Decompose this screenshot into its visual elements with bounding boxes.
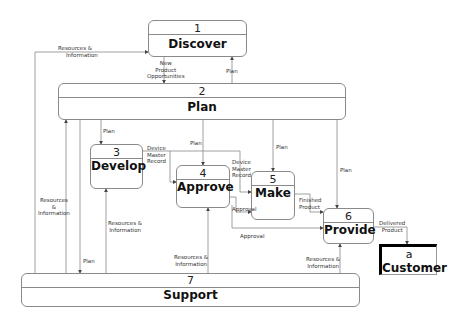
external-entity-customer: a Customer [379, 244, 437, 275]
process-discover: 1 Discover [148, 20, 247, 57]
flow-label-plan-make: Plan [276, 144, 288, 151]
flow-label-approval-make: Approval [232, 206, 256, 213]
process-number: 7 [22, 274, 359, 287]
process-develop: 3 Develop [90, 144, 143, 189]
flow-label-plan-provide: Plan [340, 167, 352, 174]
flow-label-dmr-develop: DeviceMasterRecord [147, 145, 166, 165]
process-plan: 2 Plan [58, 83, 346, 120]
process-name: Provide [324, 223, 373, 237]
flow-label-resources-left: Resources&Information [38, 197, 70, 217]
process-name: Develop [91, 159, 142, 173]
flow-label-dmr-make: DeviceMasterRecord [232, 159, 251, 179]
flow-label-new-product-opportunities: NewProductOpportunities [147, 60, 185, 80]
entity-id: a [382, 248, 436, 261]
flow-label-resources-discover: Resources &Information [58, 45, 98, 58]
flow-label-plan-develop: Plan [103, 128, 115, 135]
process-support: 7 Support [21, 273, 360, 307]
process-name: Approve [177, 180, 229, 194]
flow-label-resources-develop: Resources &Information [108, 220, 142, 233]
flow-label-resources-provide: Resources &Information [306, 256, 340, 269]
process-name: Discover [149, 37, 246, 51]
process-approve: 4 Approve [176, 165, 230, 208]
process-name: Make [252, 186, 294, 200]
entity-name: Customer [382, 261, 436, 275]
flow-label-resources-approve: Resources &Information [174, 254, 208, 267]
flow-label-delivered-product: DeliveredProduct [379, 220, 405, 233]
flow-label-finished-product: FinishedProduct [299, 197, 322, 210]
process-provide: 6 Provide [323, 208, 374, 244]
flow-label-plan-support: Plan [83, 258, 95, 265]
flow-label-plan-discover: Plan [226, 68, 238, 75]
flow-label-plan-approve: Plan [190, 140, 202, 147]
process-name: Support [22, 288, 359, 302]
process-name: Plan [59, 100, 345, 114]
process-make: 5 Make [251, 171, 295, 220]
flow-label-approval-provide: Approval [240, 233, 264, 240]
